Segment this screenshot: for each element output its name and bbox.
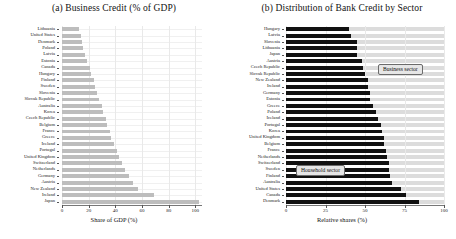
panel-b-x-axis-title: Relative shares (%) bbox=[228, 216, 456, 223]
legend-household-sector: Household sector bbox=[296, 165, 345, 176]
legend-business-sector: Business sector bbox=[378, 64, 423, 75]
figure-root: (a) Business Credit (% of GDP) Lithuania… bbox=[0, 0, 456, 239]
panel-a-x-axis-title: Share of GDP (%) bbox=[0, 216, 228, 223]
panel-b-x-title-wrap: Relative shares (%) bbox=[228, 0, 456, 239]
panel-a-x-title-wrap: Share of GDP (%) bbox=[0, 0, 228, 239]
